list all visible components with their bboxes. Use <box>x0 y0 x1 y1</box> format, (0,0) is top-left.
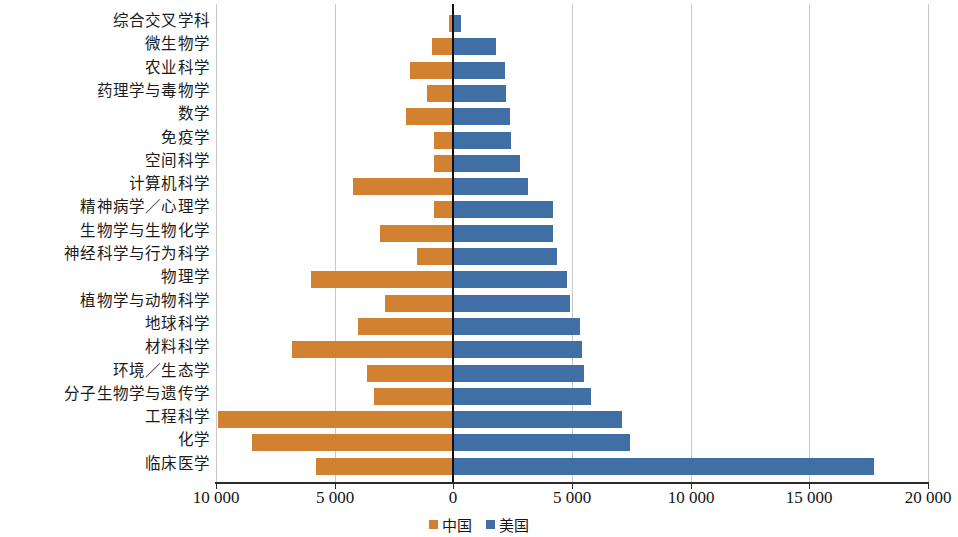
bar-row <box>216 385 928 408</box>
category-label: 地球科学 <box>0 317 210 333</box>
bar-row <box>216 268 928 291</box>
bar-row <box>216 455 928 478</box>
bar-china <box>434 132 453 149</box>
bar-row <box>216 362 928 385</box>
legend-label: 中国 <box>442 514 472 535</box>
bar-row <box>216 338 928 361</box>
bar-china <box>380 225 454 242</box>
bar-usa <box>453 62 505 79</box>
category-label-column: 综合交叉学科微生物学农业科学药理学与毒物学数学免疫学空间科学计算机科学精神病学／… <box>0 0 210 482</box>
bar-china <box>358 318 453 335</box>
bar-usa <box>453 248 556 265</box>
category-label: 化学 <box>0 433 210 449</box>
bar-china <box>432 38 453 55</box>
zero-axis-line <box>452 4 454 482</box>
bar-china <box>353 178 453 195</box>
category-label: 物理学 <box>0 270 210 286</box>
bar-row <box>216 175 928 198</box>
category-label: 空间科学 <box>0 154 210 170</box>
bar-usa <box>453 318 579 335</box>
bar-row <box>216 408 928 431</box>
bar-row <box>216 129 928 152</box>
bar-china <box>406 108 454 125</box>
bar-china <box>434 155 453 172</box>
category-label: 神经科学与行为科学 <box>0 247 210 263</box>
bar-usa <box>453 225 552 242</box>
bar-row <box>216 105 928 128</box>
category-label: 材料科学 <box>0 340 210 356</box>
category-label: 数学 <box>0 107 210 123</box>
bar-row <box>216 152 928 175</box>
bar-usa <box>453 38 496 55</box>
bar-usa <box>453 85 506 102</box>
category-label: 药理学与毒物学 <box>0 84 210 100</box>
bar-usa <box>453 201 552 218</box>
x-axis-tick-label: 20 000 <box>905 488 952 508</box>
category-label: 计算机科学 <box>0 177 210 193</box>
chart-legend: 中国美国 <box>0 514 958 535</box>
bar-usa <box>453 341 582 358</box>
category-label: 临床医学 <box>0 457 210 473</box>
bar-usa <box>453 178 528 195</box>
bar-china <box>252 434 453 451</box>
bar-usa <box>453 132 511 149</box>
bar-usa <box>453 108 510 125</box>
plot-area <box>216 4 928 482</box>
bar-usa <box>453 365 584 382</box>
bar-china <box>410 62 454 79</box>
bar-china <box>367 365 453 382</box>
bar-row <box>216 292 928 315</box>
category-label: 免疫学 <box>0 131 210 147</box>
bar-usa <box>453 411 622 428</box>
legend-swatch-icon <box>429 520 438 529</box>
bar-china <box>385 295 454 312</box>
bar-row <box>216 222 928 245</box>
bar-row <box>216 35 928 58</box>
bar-usa <box>453 388 591 405</box>
bar-usa <box>453 15 461 32</box>
bar-usa <box>453 434 630 451</box>
legend-label: 美国 <box>499 514 529 535</box>
gridline <box>928 4 929 482</box>
category-label: 植物学与动物科学 <box>0 294 210 310</box>
bar-china <box>218 411 453 428</box>
bar-china <box>417 248 454 265</box>
bar-usa <box>453 271 567 288</box>
x-axis-tick-label: 0 <box>449 488 458 508</box>
bar-row <box>216 59 928 82</box>
bar-row <box>216 82 928 105</box>
x-axis-tick-label: 5 000 <box>553 488 591 508</box>
bar-row <box>216 315 928 338</box>
bar-row <box>216 245 928 268</box>
bar-china <box>434 201 453 218</box>
category-label: 环境／生态学 <box>0 364 210 380</box>
category-label: 综合交叉学科 <box>0 14 210 30</box>
legend-item[interactable]: 中国 <box>429 514 472 535</box>
bar-usa <box>453 458 874 475</box>
legend-swatch-icon <box>486 520 495 529</box>
bar-china <box>374 388 454 405</box>
category-label: 生物学与生物化学 <box>0 224 210 240</box>
bar-usa <box>453 155 519 172</box>
legend-item[interactable]: 美国 <box>486 514 529 535</box>
category-label: 精神病学／心理学 <box>0 200 210 216</box>
bar-china <box>311 271 453 288</box>
x-axis-tick-label: 15 000 <box>786 488 833 508</box>
x-axis-tick-label: 10 000 <box>193 488 240 508</box>
bar-china <box>427 85 454 102</box>
bar-row <box>216 198 928 221</box>
bar-china <box>292 341 453 358</box>
category-label: 农业科学 <box>0 61 210 77</box>
bidirectional-bar-chart: 综合交叉学科微生物学农业科学药理学与毒物学数学免疫学空间科学计算机科学精神病学／… <box>0 0 958 537</box>
x-axis-tick-label: 10 000 <box>668 488 715 508</box>
x-axis-tick-label: 5 000 <box>316 488 354 508</box>
bar-row <box>216 431 928 454</box>
category-label: 工程科学 <box>0 410 210 426</box>
category-label: 分子生物学与遗传学 <box>0 387 210 403</box>
bar-china <box>316 458 453 475</box>
bar-usa <box>453 295 569 312</box>
bar-row <box>216 12 928 35</box>
category-label: 微生物学 <box>0 37 210 53</box>
